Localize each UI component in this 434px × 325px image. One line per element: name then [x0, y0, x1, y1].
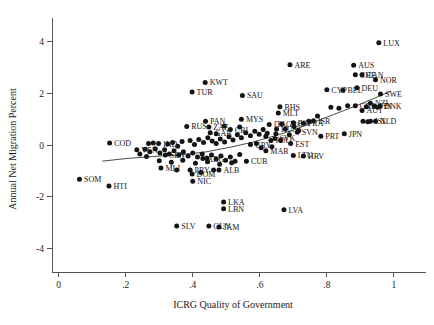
data-point: [244, 159, 249, 164]
point-label: GAB: [215, 129, 232, 138]
data-point: [201, 140, 206, 145]
data-point: [252, 129, 257, 134]
point-label: ALB: [223, 166, 239, 175]
data-point: [184, 124, 189, 129]
data-point: [353, 72, 358, 77]
data-point: [351, 63, 356, 68]
data-point: [221, 200, 226, 205]
point-label: ARG: [207, 155, 224, 164]
data-point: [376, 40, 381, 45]
data-point: [276, 111, 281, 116]
chart-canvas: 420-2-40.2.4.6.81 LUXAREAUSCHECANNORKWTD…: [0, 0, 434, 325]
x-tick-label: 0: [56, 280, 61, 290]
data-point: [257, 132, 262, 137]
y-tick-label: -4: [36, 244, 44, 254]
point-label: PRT: [325, 132, 339, 141]
data-point: [134, 147, 139, 152]
data-point: [174, 223, 179, 228]
data-point: [206, 223, 211, 228]
data-point: [180, 139, 185, 144]
point-label: CRI: [235, 126, 249, 135]
data-point: [190, 179, 195, 184]
point-label: CUB: [251, 157, 267, 166]
point-labels-group: LUXAREAUSCHECANNORKWTDEUCYPBELTURSWESAUN…: [84, 39, 402, 232]
point-label: DEU: [362, 84, 379, 93]
x-tick-label: 1: [392, 280, 397, 290]
data-point: [195, 155, 200, 160]
point-label: JPN: [349, 130, 363, 139]
data-point: [248, 142, 253, 147]
point-label: LVA: [288, 206, 303, 215]
scatter-plot-figure: 420-2-40.2.4.6.81 LUXAREAUSCHECANNORKWTD…: [0, 0, 434, 325]
data-point: [287, 62, 292, 67]
y-tick-label: 4: [39, 37, 44, 47]
data-point: [342, 131, 347, 136]
data-point: [324, 87, 329, 92]
y-tick-label: 2: [39, 89, 44, 99]
chart-axes: 420-2-40.2.4.6.81: [36, 18, 426, 290]
data-point: [221, 206, 226, 211]
data-point: [336, 106, 341, 111]
data-point: [190, 150, 195, 155]
point-label: MYS: [246, 115, 263, 124]
point-label: NLD: [380, 117, 397, 126]
point-label: LUX: [383, 39, 400, 48]
y-tick-label: 0: [39, 141, 44, 151]
data-point: [188, 138, 193, 143]
point-label: IND: [163, 140, 177, 149]
point-label: BEL: [347, 86, 362, 95]
data-point: [361, 119, 366, 124]
point-label: CYP: [331, 86, 347, 95]
point-label: KWT: [210, 78, 228, 87]
data-point: [106, 184, 111, 189]
data-point: [222, 140, 227, 145]
point-label: DNK: [384, 102, 402, 111]
point-label: SEN: [170, 151, 185, 160]
data-point: [248, 133, 253, 138]
data-point: [291, 153, 296, 158]
point-label: AUT: [367, 106, 384, 115]
data-point: [216, 167, 221, 172]
data-point: [157, 150, 162, 155]
data-point: [261, 127, 266, 132]
point-label: LBN: [228, 205, 244, 214]
data-point: [267, 122, 272, 127]
point-label: MAR: [270, 147, 289, 156]
data-point: [365, 119, 370, 124]
data-point: [263, 134, 268, 139]
data-point: [281, 207, 286, 212]
x-tick-label: .8: [323, 280, 330, 290]
point-label: SLV: [181, 222, 196, 231]
point-label: TUR: [197, 88, 214, 97]
y-tick-label: -2: [36, 192, 44, 202]
data-point: [328, 105, 333, 110]
data-point: [237, 152, 242, 157]
data-point: [208, 130, 213, 135]
point-label: VEN: [141, 146, 158, 155]
data-point: [196, 137, 201, 142]
data-point: [239, 117, 244, 122]
data-point: [345, 103, 350, 108]
data-point: [107, 141, 112, 146]
point-label: POL: [275, 136, 290, 145]
data-point: [239, 135, 244, 140]
x-tick-label: .6: [256, 280, 263, 290]
point-label: HTI: [113, 182, 127, 191]
point-label: MLI: [165, 164, 180, 173]
data-point: [240, 93, 245, 98]
point-label: SOM: [84, 175, 101, 184]
data-point: [353, 103, 358, 108]
y-axis-title: Annual Net Migration Percent: [7, 88, 18, 210]
point-label: SAU: [247, 91, 263, 100]
data-point: [214, 141, 219, 146]
point-label: SWE: [385, 90, 402, 99]
data-point: [318, 134, 323, 139]
point-label: HRV: [308, 152, 324, 161]
data-point: [190, 90, 195, 95]
data-point: [186, 153, 191, 158]
point-label: URY: [255, 141, 272, 150]
data-point: [205, 135, 210, 140]
data-point: [203, 80, 208, 85]
point-label: MLT: [283, 109, 299, 118]
data-point: [229, 160, 234, 165]
